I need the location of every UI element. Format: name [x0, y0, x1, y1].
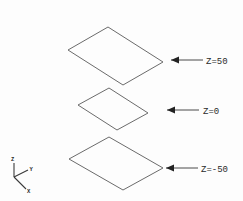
axis-triad: Z Y X	[11, 156, 34, 196]
axis-z-label: Z	[11, 156, 15, 163]
figure-canvas: Z=50 Z=0 Z=-50 Z Y X	[0, 0, 243, 201]
plane-zminus50	[69, 137, 163, 190]
callout-zminus50-arrowhead	[166, 165, 174, 172]
z-plane-diagram: Z=50 Z=0 Z=-50 Z Y X	[0, 0, 243, 201]
callout-z50-arrowhead	[171, 57, 179, 64]
callout-zminus50: Z=-50	[166, 165, 228, 175]
plane-z50	[68, 27, 163, 85]
callout-z0-arrowhead	[167, 107, 175, 114]
axis-y-line	[14, 170, 28, 177]
callout-z0: Z=0	[167, 107, 219, 117]
axis-x-label: X	[27, 188, 31, 195]
callout-z50: Z=50	[171, 57, 228, 67]
plane-z0	[78, 88, 148, 130]
axis-y-label: Y	[30, 166, 34, 173]
callout-zminus50-label: Z=-50	[201, 165, 228, 175]
axis-x-line	[14, 177, 26, 189]
callout-z50-label: Z=50	[206, 57, 228, 67]
callout-z0-label: Z=0	[203, 107, 219, 117]
